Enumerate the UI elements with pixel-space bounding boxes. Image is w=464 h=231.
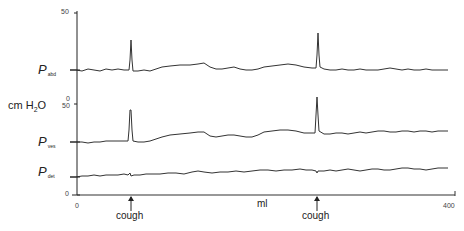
p-ves-label-main: P [38, 134, 47, 149]
x-axis-unit-label: ml [257, 198, 268, 209]
p-det-label: Pdet [38, 164, 55, 179]
p-abd-label-sub: abd [48, 71, 56, 77]
unit-tail: O [38, 99, 47, 111]
cough-arrow-1 [128, 196, 134, 211]
x-tick-label-0: 0 [75, 202, 79, 209]
p-abd-label: Pabd [38, 62, 56, 77]
p-ves-trace [70, 97, 448, 143]
y-tick-label-top-50: 50 [61, 8, 69, 15]
p-det-trace [70, 168, 448, 177]
unit-main: cm H [8, 99, 34, 111]
y-tick-label-mid-0: 0 [66, 95, 70, 102]
p-ves-label-sub: ves [48, 143, 56, 149]
cough-arrow-2 [314, 196, 320, 211]
cough-label-1: cough [116, 210, 143, 221]
cough-label-2: cough [302, 210, 329, 221]
p-det-label-sub: det [48, 173, 55, 179]
y-tick-label-mid-50: 50 [62, 102, 70, 109]
p-ves-label: Pves [38, 134, 55, 149]
y-tick-label-bottom-0: 0 [65, 190, 69, 197]
x-tick-label-400: 400 [443, 202, 455, 209]
p-abd-trace [70, 33, 448, 71]
pressure-flow-chart [0, 0, 464, 231]
p-abd-label-main: P [38, 62, 47, 77]
y-axis-unit-label: cm H2O [8, 99, 46, 113]
p-det-label-main: P [38, 164, 47, 179]
